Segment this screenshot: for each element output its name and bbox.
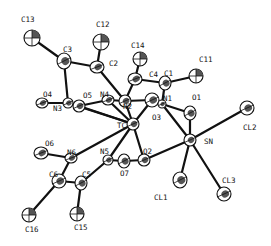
atom-label-o4: O4 xyxy=(43,90,53,99)
atom-label-c2: C2 xyxy=(109,59,118,68)
atom-c1 xyxy=(159,76,171,90)
atom-label-c1: C1 xyxy=(164,69,173,78)
atom-label-o6: O6 xyxy=(45,139,55,148)
atom-label-c15: C15 xyxy=(74,223,88,232)
atom-c13 xyxy=(24,30,40,46)
atom-layer xyxy=(22,30,254,222)
atom-label-cl2: CL2 xyxy=(243,123,257,132)
atom-n5 xyxy=(103,155,113,165)
atom-o1 xyxy=(184,106,196,120)
atom-c4 xyxy=(128,73,142,85)
atom-c16 xyxy=(22,208,36,222)
atom-label-o1: O1 xyxy=(192,93,201,102)
molecular-structure-diagram: C13C12C14C11C3C2C4C1O4N3O5N4N2O3N1O1TCSN… xyxy=(0,0,271,246)
atom-cl1 xyxy=(173,172,187,188)
atom-label-tc: TC xyxy=(117,121,126,130)
atom-label-sn: SN xyxy=(204,137,213,146)
atom-label-n1: N1 xyxy=(163,94,172,103)
atom-o6 xyxy=(34,147,48,159)
atom-cl2 xyxy=(240,101,254,115)
bond-sn-cl3 xyxy=(190,140,224,194)
atom-label-c6: C6 xyxy=(49,170,59,179)
atom-o7 xyxy=(118,154,130,168)
atom-c15 xyxy=(70,207,84,221)
atom-label-c12: C12 xyxy=(96,20,110,29)
atom-label-c4: C4 xyxy=(149,70,159,79)
atom-cl3 xyxy=(217,187,231,201)
atom-label-n4: N4 xyxy=(100,90,110,99)
atom-sn xyxy=(184,134,196,146)
atom-label-o2: O2 xyxy=(143,147,152,156)
atom-label-c5: C5 xyxy=(82,170,91,179)
atom-label-c13: C13 xyxy=(21,15,35,24)
atom-label-n3: N3 xyxy=(53,104,62,113)
atom-label-n6: N6 xyxy=(67,148,77,157)
atom-label-c14: C14 xyxy=(131,41,145,50)
atom-label-c11: C11 xyxy=(199,55,213,64)
atom-c2 xyxy=(90,61,104,73)
atom-label-n2: N2 xyxy=(123,102,132,111)
atom-c3 xyxy=(57,53,71,69)
atom-label-c16: C16 xyxy=(25,225,39,234)
atom-label-o7: O7 xyxy=(120,169,129,178)
atom-o5 xyxy=(73,100,85,112)
bond-sn-cl2 xyxy=(190,108,247,140)
atom-label-o5: O5 xyxy=(83,91,92,100)
atom-label-cl1: CL1 xyxy=(154,193,168,202)
atom-o4 xyxy=(36,98,48,108)
atom-n3 xyxy=(63,98,73,108)
atom-c14 xyxy=(133,52,147,66)
atom-o3 xyxy=(145,93,159,107)
atom-label-o3: O3 xyxy=(152,113,161,122)
atom-label-n5: N5 xyxy=(100,147,109,156)
atom-c12 xyxy=(93,34,109,50)
atom-label-c3: C3 xyxy=(63,45,72,54)
atom-c11 xyxy=(189,69,203,83)
atom-label-cl3: CL3 xyxy=(222,176,236,185)
atom-tc xyxy=(127,118,139,130)
